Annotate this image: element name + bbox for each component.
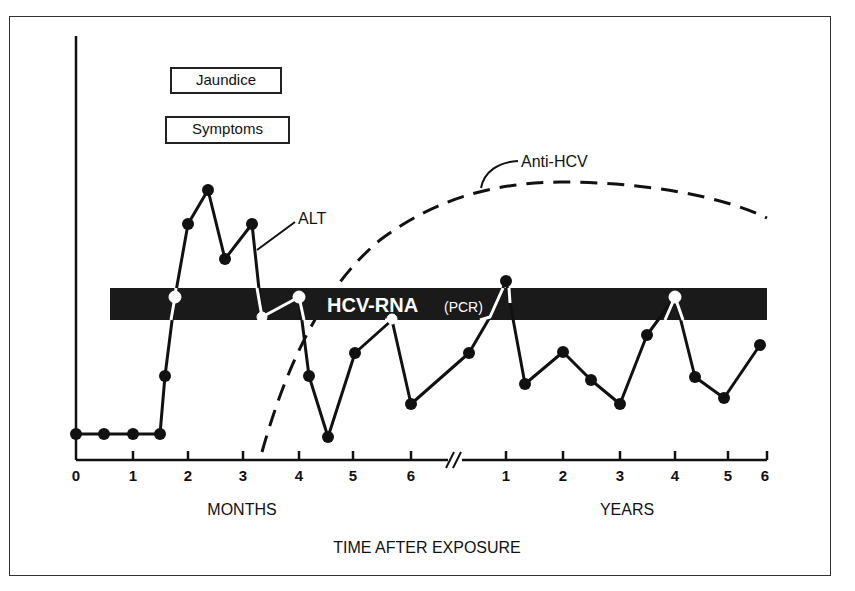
x-axis-title: TIME AFTER EXPOSURE — [333, 539, 521, 556]
data-point — [689, 371, 701, 383]
data-point — [246, 218, 258, 230]
data-point — [202, 184, 214, 196]
years-label: YEARS — [600, 501, 654, 518]
data-point — [463, 347, 475, 359]
tick-label: 2 — [184, 467, 192, 484]
pcr-label: (PCR) — [444, 299, 483, 315]
data-point — [718, 392, 730, 404]
tick-label: 3 — [239, 467, 247, 484]
data-point — [614, 398, 626, 410]
tick-label: 4 — [671, 467, 680, 484]
data-point — [219, 253, 231, 265]
data-point — [557, 346, 569, 358]
hcv-rna-label: HCV-RNA — [327, 294, 418, 316]
data-point — [98, 428, 110, 440]
data-point — [669, 291, 681, 303]
tick-label: 0 — [72, 467, 80, 484]
chart-canvas: 0 1 2 3 4 5 6 1 2 3 4 5 6 MONTHS YEARS T… — [0, 0, 855, 591]
data-point — [405, 398, 417, 410]
tick-label: 6 — [761, 467, 769, 484]
data-point — [500, 275, 512, 287]
data-point — [159, 370, 171, 382]
tick-label: 6 — [407, 467, 415, 484]
data-point — [127, 428, 139, 440]
year-tick-labels: 1 2 3 4 5 6 — [502, 467, 769, 484]
data-point — [519, 378, 531, 390]
tick-label: 3 — [616, 467, 624, 484]
anti-hcv-label: Anti-HCV — [521, 153, 588, 170]
axis-break-icon — [446, 452, 461, 468]
data-point — [169, 291, 181, 303]
data-point — [257, 312, 267, 322]
alt-label: ALT — [298, 210, 326, 227]
tick-label: 5 — [349, 467, 357, 484]
tick-label: 1 — [502, 467, 510, 484]
data-point — [349, 347, 361, 359]
data-point — [387, 314, 397, 324]
tick-label: 2 — [559, 467, 567, 484]
data-point — [154, 428, 166, 440]
data-point — [641, 329, 653, 341]
alt-leader — [257, 222, 295, 250]
data-point — [182, 218, 194, 230]
tick-label: 5 — [724, 467, 732, 484]
anti-hcv-leader — [481, 161, 518, 188]
x-axis — [76, 451, 767, 460]
data-point — [754, 339, 766, 351]
tick-label: 1 — [129, 467, 137, 484]
data-point — [585, 374, 597, 386]
tick-label: 4 — [295, 467, 304, 484]
data-point — [303, 370, 315, 382]
data-point — [293, 291, 305, 303]
months-label: MONTHS — [207, 501, 276, 518]
data-point — [322, 431, 334, 443]
month-tick-labels: 0 1 2 3 4 5 6 — [72, 467, 415, 484]
data-point — [70, 428, 82, 440]
